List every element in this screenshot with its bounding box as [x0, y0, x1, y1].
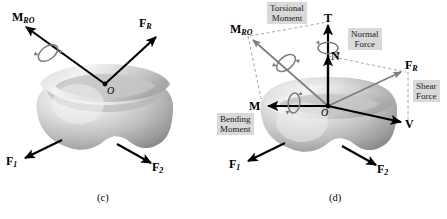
label-resultant-force: FR	[405, 59, 418, 71]
label-force-1: F1	[6, 155, 17, 167]
vector-force-1	[25, 140, 62, 158]
label-origin: O	[321, 108, 328, 118]
label-resultant-moment: MRO	[12, 11, 34, 23]
resultant-moment-curl-icon	[271, 48, 302, 77]
body-solid	[37, 64, 174, 150]
panel-c: MRO FR F1 F2 O (c)	[0, 0, 223, 219]
label-resultant-force: FR	[139, 17, 152, 29]
label-force-1: F1	[229, 158, 240, 170]
label-bending-moment: M	[249, 100, 260, 112]
line-moment-parallelogram-top	[250, 22, 328, 36]
caption-c: (c)	[97, 193, 109, 204]
panel-c-graphics	[0, 0, 223, 219]
figure-root: MRO FR F1 F2 O (c)	[0, 0, 447, 219]
vector-force-1	[248, 143, 285, 161]
shear-force-annotation: Shear Force	[413, 80, 440, 102]
normal-force-annotation: Normal Force	[348, 28, 382, 50]
label-torsional-moment: T	[324, 12, 332, 24]
torsional-moment-annotation: Torsional Moment	[267, 2, 307, 24]
label-normal-force: N	[331, 50, 340, 62]
panel-d: MRO T N FR M V F1 F2 O Torsional Moment …	[223, 0, 447, 219]
caption-d: (d)	[329, 193, 341, 204]
bending-moment-annotation: Bending Moment	[217, 113, 254, 135]
label-resultant-moment: MRO	[230, 23, 252, 35]
label-shear-force: V	[405, 118, 414, 130]
label-origin: O	[107, 86, 114, 96]
label-force-2: F2	[377, 163, 388, 175]
label-force-2: F2	[152, 161, 163, 173]
